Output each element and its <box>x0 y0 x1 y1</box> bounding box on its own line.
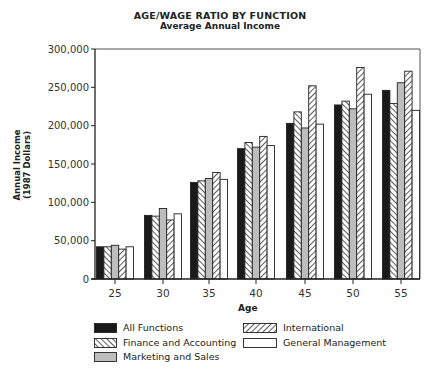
bar-group-age-25 <box>97 245 134 279</box>
y-tick-label: 50,000 <box>54 235 89 246</box>
x-tick-label: 40 <box>249 287 262 299</box>
y-tick-label: 200,000 <box>48 120 89 131</box>
bar-general-management <box>174 214 181 279</box>
y-tick-label: 150,000 <box>48 159 89 170</box>
bar-chart-plot: 050,000100,000150,000200,000250,000300,0… <box>0 0 440 379</box>
y-tick-label: 250,000 <box>48 82 89 93</box>
legend-item-finance-and-accounting: Finance and Accounting <box>94 337 236 348</box>
bar-international <box>260 136 267 279</box>
bar-all-functions <box>97 247 104 279</box>
bar-finance-and-accounting <box>198 181 205 279</box>
legend-label: Finance and Accounting <box>123 337 236 348</box>
bar-general-management <box>267 146 274 279</box>
bar-international <box>357 67 364 279</box>
x-tick-label: 30 <box>156 287 169 299</box>
bar-finance-and-accounting <box>294 112 301 279</box>
y-tick-label: 300,000 <box>48 44 89 55</box>
legend-item-all-functions: All Functions <box>94 322 183 333</box>
bar-general-management <box>364 94 371 279</box>
bar-marketing-and-sales <box>159 208 166 279</box>
legend-swatch-icon <box>243 338 277 348</box>
bar-group-age-50 <box>335 67 372 279</box>
bar-international <box>167 220 174 279</box>
legend-item-general-management: General Management <box>243 337 386 348</box>
bar-all-functions <box>145 215 152 279</box>
bar-international <box>309 86 316 279</box>
y-axis: 050,000100,000150,000200,000250,000300,0… <box>48 44 95 285</box>
bar-general-management <box>316 124 323 279</box>
legend-swatch-icon <box>94 323 117 333</box>
bar-group-age-40 <box>238 136 275 279</box>
legend-item-marketing-and-sales: Marketing and Sales <box>94 351 220 362</box>
legend-item-international: International <box>243 322 344 333</box>
legend-swatch-icon <box>94 338 117 348</box>
x-tick-label: 45 <box>298 287 311 299</box>
bar-international <box>405 71 412 279</box>
bar-group-age-45 <box>287 86 324 279</box>
y-tick-label: 100,000 <box>48 197 89 208</box>
bar-all-functions <box>335 105 342 279</box>
bar-general-management <box>126 247 133 279</box>
bar-international <box>213 172 220 279</box>
bar-marketing-and-sales <box>397 83 404 279</box>
bar-finance-and-accounting <box>245 143 252 279</box>
bar-marketing-and-sales <box>205 179 212 279</box>
bar-marketing-and-sales <box>349 109 356 279</box>
bar-group-age-55 <box>383 71 420 279</box>
legend-label: Marketing and Sales <box>123 351 220 362</box>
bar-group-age-35 <box>191 172 228 279</box>
x-tick-label: 35 <box>202 287 215 299</box>
x-tick-label: 55 <box>394 287 407 299</box>
bar-finance-and-accounting <box>152 216 159 279</box>
x-axis-label: Age <box>238 303 258 313</box>
x-axis: 25303540455055 <box>91 279 420 299</box>
bar-group-age-30 <box>145 208 182 279</box>
bar-international <box>119 249 126 279</box>
x-tick-label: 50 <box>346 287 359 299</box>
bar-all-functions <box>287 123 294 279</box>
y-tick-label: 0 <box>83 274 89 285</box>
legend-swatch-icon <box>243 323 277 333</box>
legend-label: General Management <box>283 337 386 348</box>
bar-all-functions <box>238 149 245 279</box>
x-tick-label: 25 <box>108 287 121 299</box>
bar-marketing-and-sales <box>301 128 308 279</box>
legend-swatch-icon <box>94 352 117 362</box>
legend-label: All Functions <box>123 322 183 333</box>
bar-finance-and-accounting <box>342 101 349 279</box>
bar-marketing-and-sales <box>111 245 118 279</box>
bar-finance-and-accounting <box>104 247 111 279</box>
bar-all-functions <box>191 182 198 279</box>
legend-label: International <box>283 322 344 333</box>
bar-marketing-and-sales <box>252 147 259 279</box>
bar-general-management <box>412 110 419 279</box>
bar-general-management <box>220 179 227 279</box>
bar-all-functions <box>383 90 390 279</box>
bars <box>97 67 420 279</box>
bar-finance-and-accounting <box>390 103 397 279</box>
